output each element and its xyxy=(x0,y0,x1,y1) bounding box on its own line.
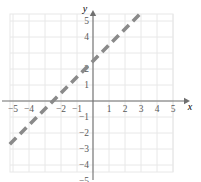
x-tick-label: 1 xyxy=(107,104,112,114)
y-tick-label: 5 xyxy=(84,16,89,26)
y-tick-label: 4 xyxy=(84,32,89,42)
x-tick-label: 2 xyxy=(123,104,128,114)
y-tick-label: −5 xyxy=(79,176,89,182)
x-tick-label: 3 xyxy=(139,104,144,114)
x-tick-label: −2 xyxy=(56,104,66,114)
data-series xyxy=(10,11,143,144)
y-tick-label: −2 xyxy=(79,128,89,138)
y-tick-label: −1 xyxy=(79,112,89,122)
coordinate-plane-figure: −5−4−2−1123455421−1−2−3−4−5 x y xyxy=(0,0,201,182)
x-axis-label: x xyxy=(187,101,193,112)
graph-canvas: −5−4−2−1123455421−1−2−3−4−5 x y xyxy=(0,0,201,182)
axes xyxy=(2,10,190,180)
grid-border xyxy=(10,14,173,172)
y-tick-label: 1 xyxy=(84,80,89,90)
grid-lines xyxy=(10,14,173,172)
y-axis-label: y xyxy=(82,3,88,14)
y-tick-label: −4 xyxy=(79,160,89,170)
x-tick-label: 5 xyxy=(171,104,176,114)
tick-labels: −5−4−2−1123455421−1−2−3−4−5 xyxy=(8,16,176,182)
y-axis-arrowhead-icon xyxy=(90,10,96,16)
boundary-line-dashed xyxy=(10,11,143,144)
y-tick-label: −3 xyxy=(79,144,89,154)
x-tick-label: −4 xyxy=(24,104,34,114)
x-tick-label: 4 xyxy=(155,104,160,114)
x-tick-label: −5 xyxy=(8,104,18,114)
